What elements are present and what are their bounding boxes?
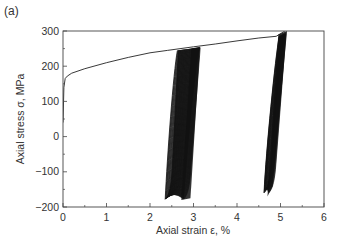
y-axis-title: Axial stress σ, MPa [14,74,26,165]
stress-strain-chart: 0123456−200−1000100200300 Axial strain ε… [0,0,341,251]
y-tick-label: −100 [35,165,59,177]
plot-area [63,31,287,200]
x-tick-label: 3 [191,211,197,223]
x-tick-label: 1 [104,211,110,223]
y-tick-label: 300 [41,25,59,37]
x-tick-label: 4 [234,211,240,223]
x-tick-label: 0 [60,211,66,223]
x-axis-title: Axial strain ε, % [156,224,230,236]
x-tick-label: 2 [147,211,153,223]
x-tick-label: 5 [278,211,284,223]
x-tick-label: 6 [321,211,327,223]
y-tick-label: −200 [35,201,59,213]
y-tick-label: 200 [41,60,59,72]
y-tick-label: 0 [53,130,59,142]
y-tick-label: 100 [41,95,59,107]
